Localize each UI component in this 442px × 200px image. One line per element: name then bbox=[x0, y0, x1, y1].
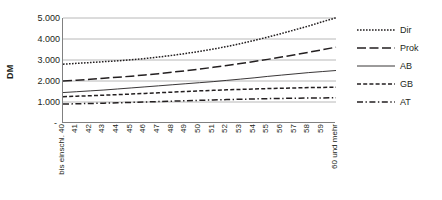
series-line-at bbox=[63, 98, 336, 104]
plot-area bbox=[62, 18, 335, 123]
plot-canvas bbox=[63, 18, 336, 123]
series-line-prok bbox=[63, 47, 336, 81]
x-tick-label: 46 bbox=[139, 124, 147, 133]
legend-label: Dir bbox=[400, 26, 412, 35]
x-tick-label: 50 bbox=[194, 124, 202, 133]
x-axis-tick-labels: bis einschl. 404142434445464748495051525… bbox=[62, 124, 335, 200]
y-tick-label: 1.000 bbox=[18, 98, 60, 107]
legend-item-prok[interactable]: Prok bbox=[356, 40, 440, 56]
x-tick-label: 60 und mehr bbox=[331, 124, 339, 169]
x-tick-label: 57 bbox=[290, 124, 298, 133]
legend-item-ab[interactable]: AB bbox=[356, 58, 440, 74]
x-tick-label: 51 bbox=[208, 124, 216, 133]
y-axis-tick-labels: -1.0002.0003.0004.0005.000 bbox=[18, 0, 60, 200]
series-line-ab bbox=[63, 71, 336, 93]
y-tick-label: 2.000 bbox=[18, 77, 60, 86]
legend-label: GB bbox=[400, 80, 413, 89]
y-tick-label: 3.000 bbox=[18, 56, 60, 65]
legend-item-gb[interactable]: GB bbox=[356, 76, 440, 92]
x-tick-label: 42 bbox=[85, 124, 93, 133]
legend-line-swatch bbox=[356, 61, 396, 71]
x-tick-label: 56 bbox=[276, 124, 284, 133]
legend-line-swatch bbox=[356, 79, 396, 89]
y-tick-label: 5.000 bbox=[18, 14, 60, 23]
x-tick-label: 58 bbox=[303, 124, 311, 133]
x-tick-label: 59 bbox=[317, 124, 325, 133]
y-tick-label: - bbox=[15, 119, 60, 128]
legend-item-at[interactable]: AT bbox=[356, 94, 440, 110]
legend-label: AB bbox=[400, 62, 412, 71]
x-tick-label: 49 bbox=[180, 124, 188, 133]
legend-item-dir[interactable]: Dir bbox=[356, 22, 440, 38]
x-tick-label: 53 bbox=[235, 124, 243, 133]
legend-label: AT bbox=[400, 98, 411, 107]
legend-line-swatch bbox=[356, 43, 396, 53]
legend-line-swatch bbox=[356, 25, 396, 35]
chart-legend: DirProkABGBAT bbox=[356, 22, 440, 114]
x-tick-label: 52 bbox=[221, 124, 229, 133]
x-tick-label: 44 bbox=[112, 124, 120, 133]
series-line-dir bbox=[63, 18, 336, 64]
chart-figure: DM -1.0002.0003.0004.0005.000 bis einsch… bbox=[0, 0, 442, 200]
x-tick-label: bis einschl. 40 bbox=[58, 124, 66, 175]
x-tick-label: 45 bbox=[126, 124, 134, 133]
y-axis-title: DM bbox=[2, 52, 18, 92]
x-tick-label: 54 bbox=[249, 124, 257, 133]
y-tick-label: 4.000 bbox=[18, 35, 60, 44]
series-line-gb bbox=[63, 87, 336, 96]
x-tick-label: 48 bbox=[167, 124, 175, 133]
legend-label: Prok bbox=[400, 44, 419, 53]
x-tick-label: 43 bbox=[98, 124, 106, 133]
x-tick-label: 41 bbox=[71, 124, 79, 133]
legend-line-swatch bbox=[356, 97, 396, 107]
x-tick-label: 55 bbox=[262, 124, 270, 133]
x-tick-label: 47 bbox=[153, 124, 161, 133]
